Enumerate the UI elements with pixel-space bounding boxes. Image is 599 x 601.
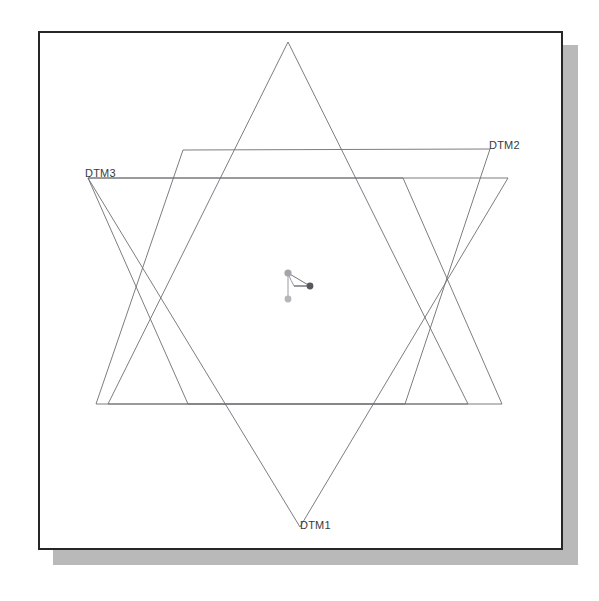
datum-label-dtm3[interactable]: DTM3 <box>85 167 116 179</box>
datum-label-dtm2[interactable]: DTM2 <box>489 139 520 151</box>
cad-drawing-view: DTM1 DTM2 DTM3 <box>0 0 599 601</box>
datum-label-dtm1[interactable]: DTM1 <box>300 519 331 531</box>
drawing-frame <box>38 31 563 550</box>
